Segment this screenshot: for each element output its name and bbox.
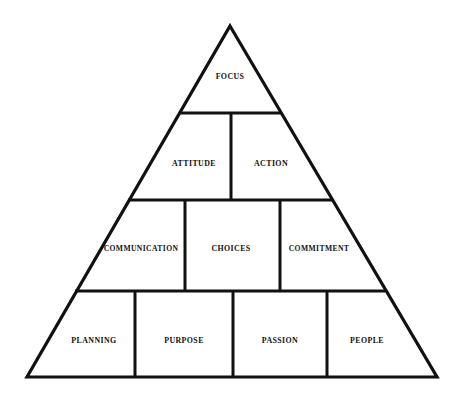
- pyramid-diagram: FOCUS ATTITUDE ACTION COMMUNICATION CHOI…: [0, 0, 464, 404]
- pyramid-outline-svg: [0, 0, 464, 404]
